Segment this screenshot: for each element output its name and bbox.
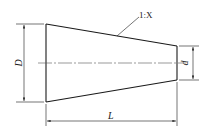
length-label: L	[108, 111, 114, 121]
taper-ratio-label: 1:X	[139, 11, 153, 20]
cone-drawing	[0, 0, 210, 137]
bottom-taper-edge	[46, 80, 177, 102]
top-taper-edge	[46, 24, 177, 46]
large-diameter-label: D	[14, 59, 24, 66]
taper-leader-line	[117, 17, 139, 36]
small-diameter-label: d	[180, 61, 190, 66]
